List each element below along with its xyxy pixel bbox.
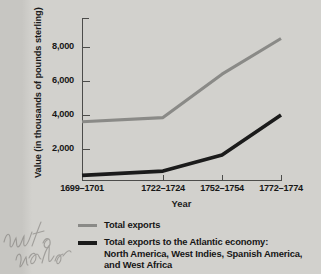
legend-entry-atlantic-economy: Total exports to the Atlantic economy: N… — [78, 236, 318, 270]
legend-label-total-exports: Total exports — [104, 219, 160, 230]
legend-line: North America, West Indies, Spanish Amer… — [104, 248, 302, 259]
axis-spines — [82, 18, 282, 181]
legend-line: Total exports — [104, 219, 160, 230]
legend-entry-total-exports: Total exports — [78, 219, 318, 230]
legend-label-atlantic-economy: Total exports to the Atlantic economy: N… — [104, 236, 302, 270]
legend-line: Total exports to the Atlantic economy: — [104, 236, 302, 247]
chart-figure: Value (in thousands of pounds sterling) … — [0, 0, 321, 274]
chart-legend: Total exports Total exports to the Atlan… — [78, 219, 318, 271]
black-line-swatch — [78, 236, 104, 245]
legend-line: and West Africa — [104, 259, 302, 270]
y-axis-ticks — [83, 48, 90, 150]
series-line-atlantic-economy — [82, 115, 281, 175]
gray-line-swatch — [78, 219, 104, 227]
series-line-total-exports — [82, 39, 281, 122]
